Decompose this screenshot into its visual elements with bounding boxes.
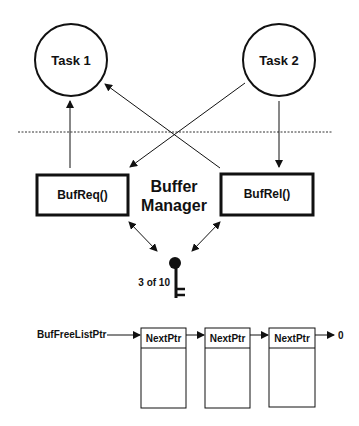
- arrow-task2-to-bufreq: [130, 83, 245, 167]
- free-list-node: NextPtr: [269, 328, 315, 407]
- node-2-field: NextPtr: [210, 333, 246, 344]
- free-list-head-label: BufFreeListPtr: [37, 329, 107, 340]
- arrow-bufrel-key: [192, 222, 220, 251]
- bufreq-label: BufReq(): [57, 188, 108, 202]
- node-1-field: NextPtr: [146, 333, 182, 344]
- key-icon: [169, 257, 185, 298]
- null-terminator: 0: [338, 330, 344, 341]
- manager-title-line1: Buffer: [150, 178, 197, 195]
- bufrel-label: BufRel(): [244, 187, 291, 201]
- node-3-field: NextPtr: [274, 333, 310, 344]
- task-2-node: Task 2: [243, 24, 315, 96]
- free-list-node: NextPtr: [141, 328, 186, 408]
- manager-title-line2: Manager: [141, 197, 207, 214]
- arrow-bufreq-key: [129, 222, 157, 251]
- buffer-manager-diagram: Task 1 Task 2 BufReq() BufRel() Buffer M…: [0, 0, 359, 426]
- free-list-node: NextPtr: [205, 328, 250, 408]
- task-1-node: Task 1: [35, 24, 107, 96]
- bufrel-box: BufRel(): [221, 174, 313, 215]
- bufreq-box: BufReq(): [37, 175, 128, 215]
- task-1-label: Task 1: [51, 53, 91, 68]
- semaphore-count: 3 of 10: [138, 277, 170, 288]
- arrow-bufrel-to-task1: [105, 84, 220, 168]
- task-2-label: Task 2: [259, 53, 299, 68]
